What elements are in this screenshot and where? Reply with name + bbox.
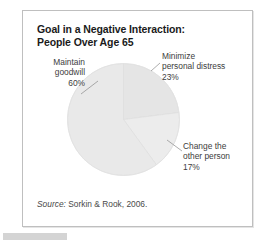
slice-label-minimize-distress-line-1: Minimize [162,51,225,61]
slice-label-change-other-person-line-2: other person [183,151,230,161]
source-label: Source: [37,199,66,209]
slice-label-maintain-goodwill-value: 60% [23,78,85,88]
chart-title: Goal in a Negative Interaction: People O… [37,23,237,49]
slice-label-maintain-goodwill-line-2: goodwill [23,67,85,77]
slice-label-minimize-distress: Minimize personal distress 23% [162,51,225,82]
source-note: Source: Sorkin & Rook, 2006. [37,199,147,209]
slice-label-change-other-person-line-1: Change the [183,141,230,151]
slice-label-change-other-person: Change the other person 17% [183,141,230,172]
slice-label-maintain-goodwill: Maintain goodwill 60% [23,57,85,88]
source-text: Sorkin & Rook, 2006. [68,199,147,209]
chart-title-line-1: Goal in a Negative Interaction: [37,23,237,36]
chart-title-line-2: People Over Age 65 [37,36,237,49]
slice-label-maintain-goodwill-line-1: Maintain [23,57,85,67]
slice-label-minimize-distress-value: 23% [162,72,225,82]
figure-card: Goal in a Negative Interaction: People O… [22,10,253,227]
page-bottom-bar [3,233,67,240]
slice-label-minimize-distress-line-2: personal distress [162,61,225,71]
slice-label-change-other-person-value: 17% [183,162,230,172]
